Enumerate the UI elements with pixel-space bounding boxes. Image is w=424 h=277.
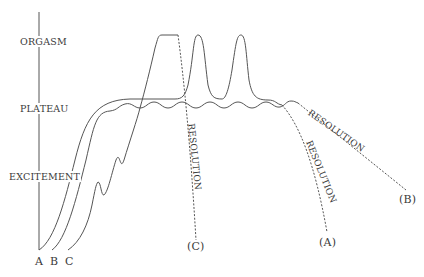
phase-label-excitement: EXCITEMENT xyxy=(8,171,81,182)
curve-end-label-c: (C) xyxy=(186,240,206,253)
curve-start-label-b: B xyxy=(49,255,59,268)
sexual-response-diagram: ORGASM PLATEAU EXCITEMENT A B C (C) (A) … xyxy=(0,0,424,277)
curve-start-label-c: C xyxy=(64,255,75,268)
curve-a xyxy=(39,35,282,250)
curve-end-label-a: (A) xyxy=(318,236,337,249)
curve-b xyxy=(52,101,298,250)
phase-label-orgasm: ORGASM xyxy=(19,36,68,47)
phase-label-plateau: PLATEAU xyxy=(19,103,70,114)
curve-c xyxy=(68,35,178,250)
curve-end-label-b: (B) xyxy=(398,193,417,206)
curve-start-label-a: A xyxy=(34,255,44,268)
